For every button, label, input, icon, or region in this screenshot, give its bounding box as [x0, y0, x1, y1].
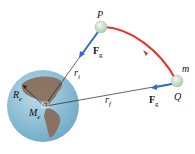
label-q: Q	[174, 92, 181, 102]
label-me: Me	[29, 108, 40, 121]
trajectory-path	[104, 27, 176, 80]
label-m: m	[182, 64, 189, 74]
label-p: P	[97, 10, 103, 20]
label-fg-q: Fg	[149, 95, 159, 108]
label-rf: rf	[105, 95, 111, 108]
mass-at-p	[95, 21, 107, 33]
label-ri: ri	[74, 68, 80, 81]
diagram: P m Q Fg Fg ri rf Re Me	[0, 0, 195, 154]
label-fg-p: Fg	[93, 46, 103, 59]
earth	[7, 70, 79, 142]
mass-at-q	[171, 75, 183, 87]
force-arrow-q	[151, 84, 172, 90]
label-re: Re	[13, 90, 22, 103]
diagram-graphics	[0, 0, 195, 154]
